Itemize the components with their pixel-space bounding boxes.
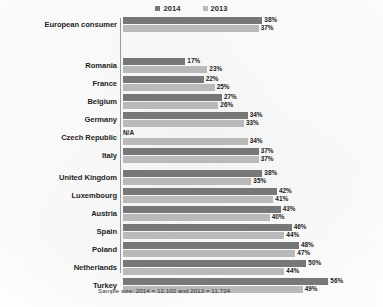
bar-value-2014: 22% [206,76,219,82]
bar-value-2013: 47% [297,250,310,256]
bar-value-2013: 37% [261,25,274,31]
bar-value-2014: 42% [279,188,292,194]
bar-value-2013: 33% [246,120,259,126]
bar-group: 38%37% [120,16,383,34]
legend-swatch-icon-2014 [155,6,160,11]
bar-2013 [123,250,295,257]
bar-track-2014: 48% [123,242,314,249]
bar-track-2013: 23% [123,66,222,73]
bar-2013 [123,178,251,185]
bar-2014 [123,94,222,101]
table-row: Italy37%37% [0,147,383,165]
bar-value-2014: 34% [250,112,263,118]
bar-track-2013: 37% [123,25,273,32]
chart-legend: 2014 2013 [0,5,383,13]
bar-value-2013: 49% [305,286,318,292]
bar-track-2014: N/A [123,130,134,137]
bar-chart: 2014 2013 European consumer38%37%Romania… [0,0,383,307]
bar-group: 46%44% [120,223,383,241]
table-row: Poland48%47% [0,241,383,259]
bar-2013 [123,84,215,91]
bar-2013 [123,156,259,163]
bar-2014 [123,76,204,83]
bar-value-2014: 37% [261,148,274,154]
category-label: Spain [0,228,120,236]
bar-group: 50%44% [120,259,383,277]
bar-2014 [123,206,281,213]
bar-value-2013: 25% [217,84,230,90]
category-label: Romania [0,62,120,70]
category-label: Netherlands [0,264,120,272]
table-row: Romania17%23% [0,57,383,75]
bar-group: 38%35% [120,169,383,187]
bar-value-2014: 56% [330,278,343,284]
bar-track-2014: 27% [123,94,237,101]
bar-track-2013: 37% [123,156,273,163]
category-label: Poland [0,246,120,254]
bar-2014 [123,278,328,285]
bar-value-2014: 27% [224,94,237,100]
table-row: Czech RepublicN/A34% [0,129,383,147]
bar-2013 [123,196,273,203]
bar-value-2013: 41% [275,196,288,202]
bar-track-2014: 38% [123,170,277,177]
bar-track-2014: 38% [123,17,277,24]
bar-value-2013: 26% [220,102,233,108]
plot-area: European consumer38%37%Romania17%23%Fran… [0,16,383,284]
bar-value-2014: 50% [308,260,321,266]
bar-2014 [123,188,277,195]
bar-2014 [123,242,299,249]
category-label: United Kingdom [0,174,120,182]
table-row: Spain46%44% [0,223,383,241]
bar-group: 22%25% [120,75,383,93]
bar-track-2014: 37% [123,148,273,155]
category-label: Luxembourg [0,192,120,200]
category-label: Italy [0,152,120,160]
category-label: Austria [0,210,120,218]
bar-group: 43%40% [120,205,383,223]
bar-track-2013: 25% [123,84,229,91]
bar-track-2014: 56% [123,278,343,285]
bar-2014 [123,260,306,267]
bar-track-2014: 34% [123,112,262,119]
chart-footnote: Sample size: 2014 = 12,102 and 2013 = 11… [98,287,230,294]
bar-track-2013: 26% [123,102,233,109]
category-label: Belgium [0,98,120,106]
bar-2014 [123,224,292,231]
bar-value-2014: 17% [187,58,200,64]
table-row: Austria43%40% [0,205,383,223]
category-label: European consumer [0,21,120,29]
bar-value-2013: 40% [272,214,285,220]
bar-track-2013: 33% [123,120,259,127]
bar-value-2014: 38% [264,17,277,23]
legend-label-2014: 2014 [163,5,180,13]
bar-value-2013: 35% [253,178,266,184]
bar-2013 [123,214,270,221]
table-row: Belgium27%26% [0,93,383,111]
bar-value-2014: 43% [283,206,296,212]
category-label: Czech Republic [0,134,120,142]
table-row: Netherlands50%44% [0,259,383,277]
table-row: United Kingdom38%35% [0,169,383,187]
bar-track-2013: 34% [123,138,262,145]
bar-2013 [123,66,207,73]
legend-label-2013: 2013 [211,5,228,13]
bar-2014 [123,112,248,119]
bar-track-2014: 42% [123,188,292,195]
bar-2014 [123,58,185,65]
bar-2013 [123,138,248,145]
bar-value-2013: 23% [209,66,222,72]
bar-2014 [123,17,262,24]
bar-value-2014: 38% [264,170,277,176]
table-row: Germany34%33% [0,111,383,129]
legend-entry-2013: 2013 [203,5,228,13]
bar-value-2014: N/A [123,130,134,136]
bar-track-2013: 40% [123,214,284,221]
bar-group: 37%37% [120,147,383,165]
bar-value-2013: 34% [250,138,263,144]
bar-group: 17%23% [120,57,383,75]
bar-track-2014: 17% [123,58,200,65]
bar-track-2014: 43% [123,206,295,213]
bar-value-2013: 44% [286,268,299,274]
table-row: France22%25% [0,75,383,93]
